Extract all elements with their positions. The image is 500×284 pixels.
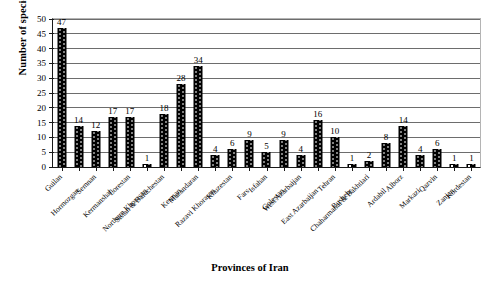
y-axis-title: Number of species xyxy=(17,0,28,114)
bar-value-label: 4 xyxy=(298,145,303,154)
plot-area: 05101520253035404550 4714121717118283446… xyxy=(52,18,481,168)
bar-value-label: 14 xyxy=(399,116,408,125)
bar[interactable]: 9 xyxy=(279,140,288,167)
y-tick-label: 35 xyxy=(37,59,46,68)
bar-slot: 28 xyxy=(173,19,190,167)
bar-slot: 2 xyxy=(360,19,377,167)
y-tick-label: 15 xyxy=(37,118,46,127)
bar[interactable]: 6 xyxy=(228,149,237,167)
bar-slot: 14 xyxy=(395,19,412,167)
bar-value-label: 9 xyxy=(281,130,286,139)
y-tick-label: 40 xyxy=(37,44,46,53)
bar-slot: 6 xyxy=(224,19,241,167)
bar-slot: 5 xyxy=(258,19,275,167)
bar-slot: 16 xyxy=(309,19,326,167)
y-tick-label: 20 xyxy=(37,103,46,112)
bar-value-label: 2 xyxy=(367,151,372,160)
bar-slot: 17 xyxy=(104,19,121,167)
bar[interactable]: 28 xyxy=(177,84,186,167)
bar[interactable]: 8 xyxy=(382,143,391,167)
x-axis-title: Provinces of Iran xyxy=(0,262,500,273)
bar[interactable]: 16 xyxy=(313,120,322,167)
bar[interactable]: 17 xyxy=(108,117,117,167)
bar-value-label: 1 xyxy=(145,154,150,163)
y-tick-label: 30 xyxy=(37,74,46,83)
y-tick-label: 45 xyxy=(37,29,46,38)
bar[interactable]: 4 xyxy=(416,155,425,167)
bar[interactable]: 12 xyxy=(91,131,100,167)
bar-value-label: 8 xyxy=(384,133,389,142)
bar[interactable]: 47 xyxy=(57,28,66,167)
bar-slot: 1 xyxy=(343,19,360,167)
bar-slot: 4 xyxy=(412,19,429,167)
bar-value-label: 16 xyxy=(313,110,322,119)
bar-value-label: 1 xyxy=(452,154,457,163)
bar[interactable]: 10 xyxy=(330,137,339,167)
y-tick-label: 0 xyxy=(42,163,47,172)
bar-slot: 1 xyxy=(446,19,463,167)
y-tick-label: 25 xyxy=(37,89,46,98)
bar-value-label: 47 xyxy=(57,18,66,27)
bar-value-label: 17 xyxy=(125,107,134,116)
bar-value-label: 1 xyxy=(469,154,474,163)
bar-slot: 14 xyxy=(70,19,87,167)
bar-chart: Number of species 05101520253035404550 4… xyxy=(0,0,500,284)
bar-value-label: 12 xyxy=(91,121,100,130)
bar[interactable]: 6 xyxy=(433,149,442,167)
bar-value-label: 4 xyxy=(418,145,423,154)
bar-slot: 9 xyxy=(241,19,258,167)
bar-series: 471412171711828344695941610128144611 xyxy=(53,19,480,167)
bar-slot: 4 xyxy=(207,19,224,167)
bar-value-label: 5 xyxy=(264,142,269,151)
bar[interactable]: 14 xyxy=(399,126,408,167)
bar[interactable]: 14 xyxy=(74,126,83,167)
bar-slot: 9 xyxy=(275,19,292,167)
bar[interactable]: 4 xyxy=(211,155,220,167)
y-tick-label: 5 xyxy=(42,148,47,157)
bar-value-label: 14 xyxy=(74,116,83,125)
y-tick-label: 10 xyxy=(37,133,46,142)
bar-value-label: 6 xyxy=(435,139,440,148)
bar-value-label: 9 xyxy=(247,130,252,139)
bar-value-label: 28 xyxy=(177,74,186,83)
bar-value-label: 34 xyxy=(194,56,203,65)
bar-value-label: 6 xyxy=(230,139,235,148)
bar-slot: 1 xyxy=(463,19,480,167)
bar-slot: 10 xyxy=(326,19,343,167)
bar-slot: 1 xyxy=(138,19,155,167)
bar-slot: 12 xyxy=(87,19,104,167)
bar[interactable]: 17 xyxy=(125,117,134,167)
bar-slot: 18 xyxy=(155,19,172,167)
bar[interactable]: 4 xyxy=(296,155,305,167)
bar-slot: 6 xyxy=(429,19,446,167)
y-tick-label: 50 xyxy=(37,15,46,24)
bar[interactable]: 34 xyxy=(194,66,203,167)
bar[interactable]: 9 xyxy=(245,140,254,167)
bar-value-label: 17 xyxy=(108,107,117,116)
bar-slot: 34 xyxy=(190,19,207,167)
bar-value-label: 4 xyxy=(213,145,218,154)
bar[interactable]: 5 xyxy=(262,152,271,167)
bar-slot: 47 xyxy=(53,19,70,167)
bar-value-label: 18 xyxy=(160,104,169,113)
bar-slot: 8 xyxy=(378,19,395,167)
bar[interactable]: 18 xyxy=(160,114,169,167)
bar-slot: 17 xyxy=(121,19,138,167)
bar-value-label: 10 xyxy=(330,127,339,136)
bar-value-label: 1 xyxy=(350,154,355,163)
x-axis-category-labels: GuilanHormozganSemnanKermanshahLorestanN… xyxy=(52,168,481,254)
bar-slot: 4 xyxy=(292,19,309,167)
